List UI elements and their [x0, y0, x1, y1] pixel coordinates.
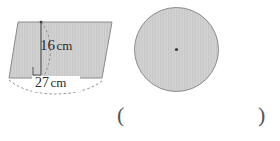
base-unit: cm — [51, 75, 67, 90]
answer-close-paren: ) — [258, 104, 265, 126]
base-measurement-label: 27cm — [35, 76, 66, 90]
answer-open-paren: ( — [117, 104, 124, 126]
height-measurement-label: 16cm — [40, 38, 72, 53]
base-value: 27 — [35, 75, 49, 90]
height-value: 16 — [40, 37, 55, 53]
worksheet-figure-page: 16cm 27cm ( ) — [0, 0, 280, 141]
circle-center-dot — [175, 48, 178, 51]
circle-figure — [135, 8, 219, 92]
apex-dot — [40, 21, 43, 24]
geometry-figures — [0, 0, 280, 141]
height-unit: cm — [57, 38, 73, 53]
